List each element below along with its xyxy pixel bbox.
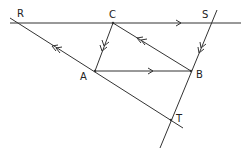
line-rt	[10, 18, 183, 128]
point-a	[94, 70, 96, 72]
label-b: B	[196, 69, 203, 80]
geometry-diagram: R C S A B T	[0, 0, 250, 155]
point-c	[112, 22, 114, 24]
label-t: T	[175, 113, 183, 124]
segment-ca	[95, 23, 113, 71]
label-a: A	[80, 71, 87, 82]
label-c: C	[109, 9, 116, 20]
label-s: S	[202, 9, 208, 20]
point-t	[170, 119, 172, 121]
label-r: R	[17, 8, 24, 19]
line-sbt	[160, 10, 217, 148]
point-b	[190, 70, 192, 72]
segment-cb	[113, 23, 191, 71]
